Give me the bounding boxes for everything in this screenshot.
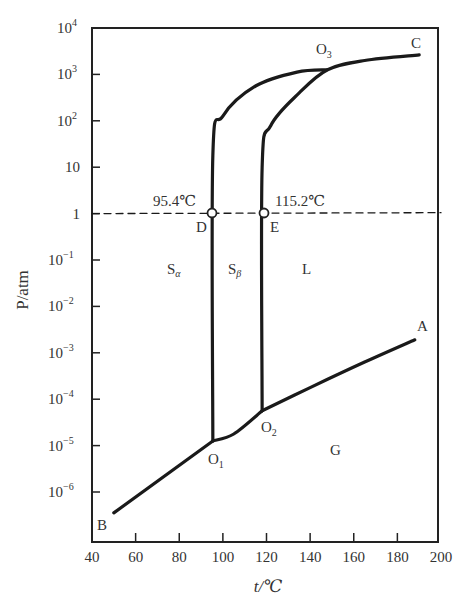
y-tick-label: 10−5 [48, 435, 74, 454]
x-tick-label: 80 [172, 549, 187, 565]
y-tick-label: 1 [73, 206, 81, 222]
y-tick-label: 10−6 [48, 481, 74, 500]
phase-diagram: 10410310210110−110−210−310−410−510−6 406… [0, 0, 473, 616]
y-tick-label: 104 [57, 17, 77, 36]
x-tick-label: 40 [85, 549, 100, 565]
x-tick-label: 200 [430, 549, 453, 565]
x-tick-label: 120 [255, 549, 278, 565]
y-tick-label: 10−4 [48, 388, 74, 407]
region-s-alpha-label: Sα [167, 261, 181, 279]
x-tick-label: 180 [386, 549, 409, 565]
y-tick-label: 10−3 [48, 342, 74, 361]
phase-boundary-curve [213, 411, 262, 441]
x-tick-label: 60 [128, 549, 143, 565]
phase-boundary-curve [262, 340, 415, 411]
point-e-marker [260, 209, 269, 218]
point-d-marker [208, 209, 217, 218]
d-temperature-label: 95.4℃ [153, 193, 196, 209]
e-temperature-label: 115.2℃ [275, 193, 325, 209]
label-c: C [411, 35, 421, 51]
label-a: A [417, 318, 428, 334]
y-axis [92, 74, 100, 492]
point-o2-label: O2 [261, 419, 277, 438]
x-tick-label: 140 [299, 549, 322, 565]
point-e-label: E [270, 219, 279, 235]
x-tick-label: 160 [343, 549, 366, 565]
point-o1-label: O1 [208, 451, 224, 470]
phase-boundary-curve [261, 55, 419, 411]
point-d-label: D [196, 219, 207, 235]
x-tick-label: 100 [212, 549, 235, 565]
region-liquid-label: L [302, 261, 311, 277]
y-tick-label: 103 [57, 63, 77, 82]
phase-boundary-curve [114, 441, 213, 513]
phase-curves [92, 55, 441, 513]
y-axis-label: P/atm [13, 270, 32, 310]
plot-frame [92, 28, 438, 542]
y-tick-labels: 10410310210110−110−210−310−410−510−6 [48, 17, 80, 500]
y-tick-label: 10 [65, 159, 80, 175]
point-o3-label: O3 [316, 41, 332, 60]
x-tick-labels: 406080100120140160180200 [85, 549, 453, 565]
y-tick-label: 102 [57, 110, 77, 129]
region-s-beta-label: Sβ [228, 261, 241, 279]
x-axis [136, 533, 398, 542]
region-gas-label: G [330, 442, 341, 458]
y-tick-label: 10−1 [48, 249, 74, 268]
label-b: B [97, 517, 107, 533]
y-tick-label: 10−2 [48, 295, 74, 314]
x-axis-label: t/℃ [254, 577, 282, 596]
